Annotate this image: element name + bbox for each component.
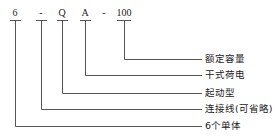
label-connector-optional: 连接线(可省略) xyxy=(205,104,272,114)
code-part-capacity: 100 xyxy=(112,8,136,18)
label-dry-charged: 干式荷电 xyxy=(205,70,245,80)
code-part-type: Q xyxy=(50,8,74,18)
label-six-cells: 6个单体 xyxy=(205,121,241,131)
code-part-cells: 6 xyxy=(3,8,27,18)
battery-code-diagram: 6 - Q A - 100 额定容量 干式荷电 起动型 连接线(可省略) 6个单… xyxy=(0,0,276,138)
label-rated-capacity: 额定容量 xyxy=(205,54,245,64)
label-starter-type: 起动型 xyxy=(205,88,235,98)
